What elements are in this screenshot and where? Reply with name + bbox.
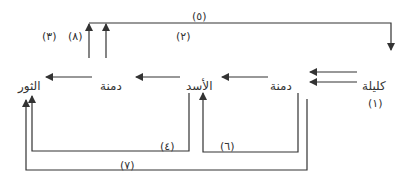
edge-5 [89, 23, 391, 50]
node-asad: الأسد [186, 79, 213, 93]
label-3: (٣) [42, 30, 57, 43]
node-dimna-left: دمنة [100, 79, 122, 93]
edge-6 [203, 93, 298, 152]
label-6: (٦) [220, 140, 235, 153]
node-thawr: الثور [18, 79, 41, 93]
label-5: (٥) [192, 10, 207, 23]
node-kalila: كليلة [362, 79, 386, 93]
node-dimna-right: دمنة [270, 79, 292, 93]
label-7: (٧) [120, 159, 135, 172]
label-1: (١) [368, 97, 383, 110]
diagram-canvas: كليلة دمنة الأسد دمنة الثور (١) (٢) (٣) … [0, 0, 418, 185]
edge-7 [26, 99, 307, 170]
label-8: (٨) [68, 30, 83, 43]
label-4: (٤) [160, 140, 175, 153]
label-2: (٢) [176, 30, 191, 43]
